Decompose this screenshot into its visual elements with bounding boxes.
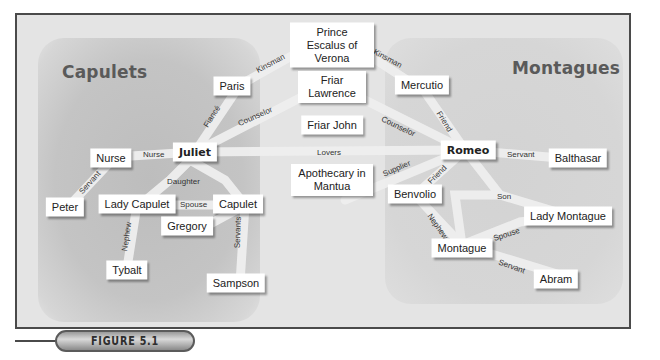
node-paris[interactable]: Paris: [213, 77, 250, 96]
node-capulet[interactable]: Capulet: [213, 195, 263, 214]
node-montague[interactable]: Montague: [432, 239, 493, 258]
node-friar-john[interactable]: Friar John: [301, 116, 363, 135]
edge-label-nurse: Nurse: [143, 150, 164, 159]
edge-label-lovers: Lovers: [317, 148, 341, 157]
edge-label-servants: Servants: [233, 217, 243, 249]
figure-label: FIGURE 5.1: [71, 334, 180, 348]
figure-banner: FIGURE 5.1: [55, 330, 195, 352]
node-gregory[interactable]: Gregory: [161, 217, 213, 236]
node-romeo[interactable]: Romeo: [441, 141, 496, 160]
edge-label-son: Son: [497, 192, 511, 201]
node-abram[interactable]: Abram: [534, 270, 578, 289]
node-balthasar[interactable]: Balthasar: [549, 149, 607, 168]
node-nurse[interactable]: Nurse: [90, 149, 131, 168]
node-benvolio[interactable]: Benvolio: [388, 185, 442, 204]
node-lady-capulet[interactable]: Lady Capulet: [99, 195, 176, 214]
node-sampson[interactable]: Sampson: [207, 274, 265, 293]
node-mercutio[interactable]: Mercutio: [395, 76, 449, 95]
node-lady-montague[interactable]: Lady Montague: [524, 207, 612, 226]
edge-label-servant-balthasar: Servant: [507, 150, 535, 159]
edge-label-daughter: Daughter: [167, 177, 200, 186]
node-prince-escalus[interactable]: Prince Escalus of Verona: [290, 23, 374, 68]
node-juliet[interactable]: Juliet: [173, 143, 217, 162]
node-peter[interactable]: Peter: [46, 198, 84, 217]
banner-rule-left: [15, 340, 57, 342]
node-tybalt[interactable]: Tybalt: [106, 261, 147, 280]
node-friar-lawrence[interactable]: Friar Lawrence: [298, 71, 366, 103]
node-apothecary[interactable]: Apothecary in Mantua: [291, 164, 373, 196]
edge-label-spouse-capulet: Spouse: [180, 200, 207, 209]
